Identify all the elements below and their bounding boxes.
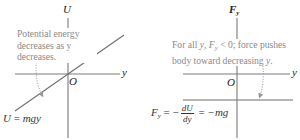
right-eq-frac-den: dy <box>181 114 194 124</box>
right-vertical-axis-label: Fy <box>229 4 239 17</box>
right-note-line-2: body toward decreasing y. <box>172 55 300 67</box>
right-eq-sign-2: = <box>199 106 205 118</box>
left-eq-rhs: mgy <box>23 112 41 124</box>
left-curve-label: U = mgy <box>3 113 41 124</box>
left-origin-label: O <box>69 76 77 87</box>
right-note-line2-post: . <box>270 55 272 66</box>
right-horizontal-axis-label: y <box>292 67 297 78</box>
right-note-text: For all <box>172 39 200 50</box>
left-note-line-1: Potential energy <box>17 28 97 40</box>
right-note-line-1: For all y, Fy < 0; force pushes <box>172 39 300 55</box>
right-force-equation: Fy = −dUdy = −mg <box>151 103 228 124</box>
right-note-post: < 0; force pushes <box>218 39 286 50</box>
right-origin-label: O <box>227 77 235 88</box>
left-vertical-axis-label: U <box>63 4 71 15</box>
left-note-line-3: decreases. <box>17 51 97 63</box>
left-horizontal-axis-label: y <box>122 67 127 78</box>
right-eq-frac-num: dU <box>181 103 194 114</box>
right-eq-rhs: −mg <box>208 106 229 118</box>
left-eq-sign: = <box>14 112 20 124</box>
right-note-line2-text: body toward decreasing <box>172 55 266 66</box>
right-eq-lhs: F <box>151 106 158 118</box>
right-eq-sign-1: = <box>164 106 170 118</box>
right-vertical-axis-sub: y <box>236 9 239 17</box>
right-note: For all y, Fy < 0; force pushes body tow… <box>172 39 300 66</box>
left-dashed-arrow-icon <box>36 57 42 95</box>
right-eq-minus: − <box>173 106 179 118</box>
diagram-canvas <box>0 0 300 140</box>
left-note: Potential energy decreases as y decrease… <box>17 28 97 63</box>
right-eq-fraction: dUdy <box>181 103 194 124</box>
right-eq-lhs-sub: y <box>158 112 161 120</box>
left-eq-lhs: U <box>3 112 11 124</box>
left-note-line-2: decreases as y <box>17 40 97 52</box>
